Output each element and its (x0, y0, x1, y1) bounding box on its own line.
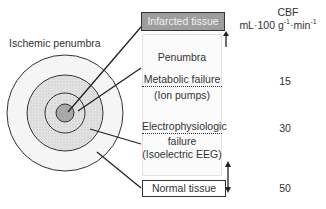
electro-threshold-line (142, 133, 222, 134)
electro-detail-label: (Isoelectric EEG) (142, 148, 222, 160)
infarcted-tissue-box: Infarcted tissue (141, 12, 225, 31)
electro-failure-label: Electrophysiologic (142, 120, 222, 132)
arrow-up-double (225, 161, 231, 167)
infarct-core (56, 104, 74, 122)
cbf-value-30: 30 (270, 122, 300, 134)
cbf-value-15: 15 (270, 75, 300, 87)
penumbra-label: Penumbra (142, 51, 222, 63)
electro-failure-label-2: failure (142, 135, 222, 147)
metabolic-failure-label: Metabolic failure (142, 73, 222, 85)
normal-tissue-box: Normal tissue (142, 180, 226, 197)
arrow-up-infarct (223, 31, 229, 36)
diagram-title: Ischemic penumbra (9, 37, 101, 49)
cbf-value-50: 50 (270, 182, 300, 194)
leader-normal (97, 152, 141, 188)
cbf-header: CBF (250, 6, 326, 18)
cbf-unit: mL·100 g-1·min-1 (230, 18, 326, 31)
metabolic-threshold-line (142, 86, 222, 87)
metabolic-detail-label: (Ion pumps) (142, 89, 222, 101)
